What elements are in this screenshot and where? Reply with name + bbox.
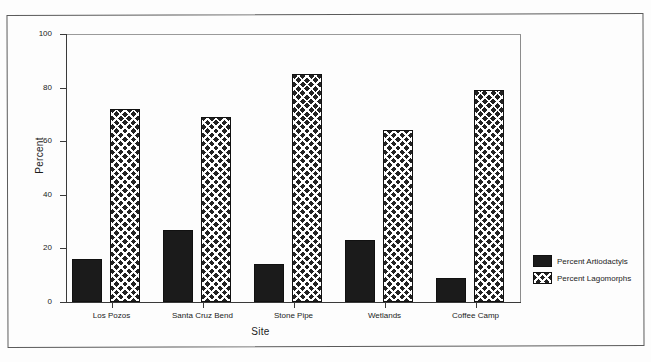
bar-lagomorphs bbox=[201, 117, 231, 302]
bar-group bbox=[430, 34, 521, 302]
bar-artiodactyls bbox=[254, 264, 284, 302]
y-tick-label: 40 bbox=[0, 190, 60, 199]
bar-chart: 020406080100 Percent Site Los PozosSanta… bbox=[0, 0, 651, 362]
bar-group bbox=[339, 34, 430, 302]
legend-label: Percent Artiodactyls bbox=[557, 257, 628, 266]
bar-group bbox=[66, 34, 157, 302]
legend-item: Percent Lagomorphs bbox=[533, 272, 637, 284]
x-tick-mark bbox=[385, 302, 386, 308]
y-tick-mark bbox=[60, 302, 67, 303]
scanned-page: 020406080100 Percent Site Los PozosSanta… bbox=[0, 0, 651, 362]
legend-swatch-icon bbox=[533, 272, 552, 284]
x-axis-title: Site bbox=[0, 326, 521, 337]
x-tick-label: Coffee Camp bbox=[421, 311, 531, 320]
bar-lagomorphs bbox=[110, 109, 140, 302]
y-tick-label: 80 bbox=[0, 83, 60, 92]
legend-swatch-icon bbox=[533, 255, 552, 267]
y-axis-title: Percent bbox=[34, 111, 45, 201]
y-tick-label: 100 bbox=[0, 29, 60, 38]
bar-lagomorphs bbox=[292, 74, 322, 302]
bar-lagomorphs bbox=[474, 90, 504, 302]
y-tick-label: 20 bbox=[0, 243, 60, 252]
chart-legend: Percent ArtiodactylsPercent Lagomorphs bbox=[533, 255, 637, 289]
legend-item: Percent Artiodactyls bbox=[533, 255, 637, 267]
bar-group bbox=[248, 34, 339, 302]
x-tick-mark bbox=[112, 302, 113, 308]
y-tick-label: 0 bbox=[0, 297, 60, 306]
x-tick-mark bbox=[294, 302, 295, 308]
y-tick-label: 60 bbox=[0, 136, 60, 145]
bar-artiodactyls bbox=[436, 278, 466, 302]
bar-artiodactyls bbox=[72, 259, 102, 302]
x-tick-mark bbox=[476, 302, 477, 308]
bar-lagomorphs bbox=[383, 130, 413, 302]
bar-artiodactyls bbox=[345, 240, 375, 302]
legend-label: Percent Lagomorphs bbox=[557, 274, 631, 283]
bar-artiodactyls bbox=[163, 230, 193, 302]
bar-group bbox=[157, 34, 248, 302]
x-tick-mark bbox=[203, 302, 204, 308]
bar-groups bbox=[66, 34, 521, 302]
